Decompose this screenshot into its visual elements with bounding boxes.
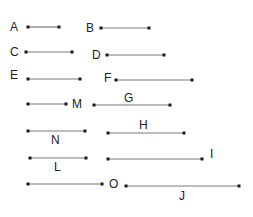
- segment-end-point: [238, 185, 241, 188]
- segment-start-point: [27, 130, 30, 133]
- line-segments-diagram: ABCDEFMGNHLIOJ: [0, 0, 253, 217]
- segment-label: J: [179, 189, 185, 203]
- segment-label: N: [51, 133, 60, 147]
- segment-start-point: [25, 51, 28, 54]
- segment-start-point: [115, 79, 118, 82]
- segment-start-point: [125, 185, 128, 188]
- segment-start-point: [27, 26, 30, 29]
- segment-start-point: [27, 78, 30, 81]
- segment-label: I: [210, 147, 213, 161]
- segment-o: O: [27, 177, 119, 191]
- segment-g: G: [93, 91, 172, 107]
- segment-end-point: [191, 79, 194, 82]
- segment-end-point: [58, 26, 61, 29]
- segment-start-point: [100, 27, 103, 30]
- segment-j: J: [125, 185, 241, 204]
- segment-label: B: [86, 21, 94, 35]
- segment-label: G: [124, 91, 133, 105]
- segment-n: N: [27, 130, 87, 148]
- segment-start-point: [107, 132, 110, 135]
- segment-end-point: [84, 130, 87, 133]
- segment-start-point: [29, 157, 32, 160]
- segment-i: I: [107, 147, 214, 161]
- segment-label: L: [54, 160, 61, 174]
- segment-f: F: [104, 71, 194, 85]
- segment-e: E: [10, 68, 82, 82]
- segment-label: M: [72, 97, 82, 111]
- segment-h: H: [107, 118, 186, 135]
- segment-label: C: [10, 45, 19, 59]
- segment-end-point: [65, 103, 68, 106]
- segment-label: E: [10, 68, 18, 82]
- segment-end-point: [148, 27, 151, 30]
- segment-start-point: [93, 104, 96, 107]
- segment-start-point: [107, 158, 110, 161]
- segment-end-point: [79, 78, 82, 81]
- segment-label: F: [104, 71, 111, 85]
- segment-end-point: [183, 132, 186, 135]
- segment-m: M: [27, 97, 83, 111]
- segment-c: C: [10, 45, 74, 59]
- segment-label: A: [10, 20, 18, 34]
- segment-a: A: [10, 20, 61, 34]
- segment-label: H: [139, 118, 148, 132]
- segment-end-point: [201, 158, 204, 161]
- segment-end-point: [101, 183, 104, 186]
- segment-end-point: [163, 54, 166, 57]
- segment-end-point: [169, 104, 172, 107]
- segment-end-point: [71, 51, 74, 54]
- segment-label: D: [92, 48, 101, 62]
- segment-b: B: [86, 21, 151, 35]
- segment-start-point: [106, 54, 109, 57]
- segment-start-point: [27, 103, 30, 106]
- segment-d: D: [92, 48, 166, 62]
- segment-l: L: [29, 157, 88, 175]
- segment-label: O: [109, 177, 118, 191]
- segment-end-point: [85, 157, 88, 160]
- segment-start-point: [27, 183, 30, 186]
